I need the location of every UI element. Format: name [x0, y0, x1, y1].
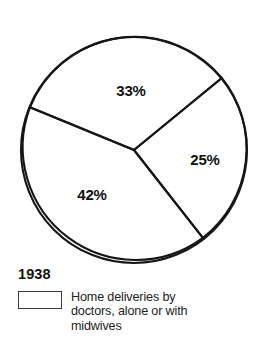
legend-line-1: Home deliveries by: [71, 290, 187, 304]
pie-label-25: 25%: [190, 151, 219, 168]
pie-label-42: 42%: [77, 186, 106, 203]
pie-svg: 33% 25% 42%: [0, 0, 265, 275]
legend-label: Home deliveries by doctors, alone or wit…: [71, 290, 187, 333]
pie-slice-hatched-42[interactable]: [23, 107, 203, 260]
legend-line-3: midwives: [71, 319, 187, 333]
legend-swatch-white: [18, 291, 62, 309]
legend: Home deliveries by doctors, alone or wit…: [18, 290, 187, 333]
pie-chart-figure: 33% 25% 42% 1938 Home deliveries by doct…: [0, 0, 265, 339]
year-label: 1938: [18, 266, 51, 282]
pie-chart-canvas: 33% 25% 42%: [0, 0, 265, 275]
pie-label-33: 33%: [116, 82, 145, 99]
legend-line-2: doctors, alone or with: [71, 304, 187, 318]
